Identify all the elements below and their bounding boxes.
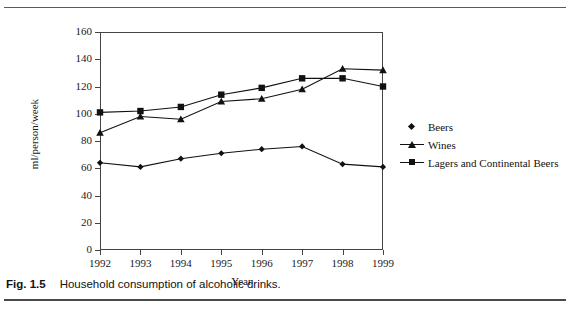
data-point-diamond <box>137 164 143 170</box>
y-tick-label: 20 <box>52 217 92 228</box>
x-tick <box>262 250 263 255</box>
x-tick <box>302 250 303 255</box>
chart-legend: BeersWinesLagers and Continental Beers <box>400 118 570 172</box>
x-tick <box>221 250 222 255</box>
legend-label: Beers <box>428 121 453 133</box>
data-point-diamond <box>380 164 386 170</box>
figure-caption: Fig. 1.5 Household consumption of alcoho… <box>6 278 281 290</box>
chart-figure: 020406080100120140160 ml/person/week 199… <box>0 10 570 272</box>
x-tick-label: 1999 <box>363 258 403 269</box>
x-tick-label: 1998 <box>323 258 363 269</box>
data-point-square <box>259 85 265 91</box>
series-lagers-and-continental-beers <box>97 75 386 115</box>
page-rule-top <box>4 7 566 8</box>
x-tick-label: 1997 <box>282 258 322 269</box>
legend-symbol <box>408 123 415 130</box>
data-point-diamond <box>218 150 224 156</box>
x-tick <box>140 250 141 255</box>
y-tick-label: 100 <box>52 108 92 119</box>
legend-marker-square-icon <box>400 157 424 169</box>
legend-symbol <box>408 141 416 148</box>
data-point-square <box>178 104 184 110</box>
x-tick-label: 1993 <box>120 258 160 269</box>
y-tick-label: 140 <box>52 53 92 64</box>
y-tick-label: 0 <box>52 244 92 255</box>
x-tick-label: 1996 <box>242 258 282 269</box>
data-point-square <box>218 91 224 97</box>
x-tick-label: 1995 <box>201 258 241 269</box>
data-point-diamond <box>259 146 265 152</box>
series-line <box>100 78 383 112</box>
plot-area <box>100 32 383 250</box>
series-beers <box>97 143 386 170</box>
legend-symbol <box>409 159 415 165</box>
data-point-square <box>380 83 386 89</box>
y-axis-tick-labels: 020406080100120140160 <box>48 10 92 272</box>
y-tick-label: 40 <box>52 190 92 201</box>
x-tick <box>343 250 344 255</box>
figure-page: 020406080100120140160 ml/person/week 199… <box>0 0 570 316</box>
page-rule-bottom <box>4 299 566 301</box>
y-tick-label: 120 <box>52 81 92 92</box>
data-point-diamond <box>178 156 184 162</box>
data-point-square <box>137 108 143 114</box>
data-point-square <box>339 75 345 81</box>
y-tick-label: 60 <box>52 162 92 173</box>
y-tick-label: 160 <box>52 26 92 37</box>
legend-item-beers: Beers <box>400 118 570 136</box>
x-tick-label: 1992 <box>80 258 120 269</box>
legend-item-lagers-and-continental-beers: Lagers and Continental Beers <box>400 154 570 172</box>
data-point-square <box>97 109 103 115</box>
x-tick-label: 1994 <box>161 258 201 269</box>
data-point-diamond <box>339 161 345 167</box>
figure-number: Fig. 1.5 <box>6 278 46 290</box>
y-tick-label: 80 <box>52 135 92 146</box>
y-axis-title: ml/person/week <box>28 74 40 194</box>
x-tick <box>100 250 101 255</box>
legend-label: Lagers and Continental Beers <box>428 157 558 169</box>
legend-marker-triangle-icon <box>400 139 424 151</box>
data-point-triangle <box>298 85 306 92</box>
figure-caption-text: Household consumption of alcoholic drink… <box>60 278 281 290</box>
legend-marker-diamond-icon <box>400 121 424 133</box>
data-series-svg <box>100 32 383 250</box>
x-tick <box>181 250 182 255</box>
data-point-triangle <box>96 129 104 136</box>
data-point-diamond <box>97 160 103 166</box>
data-point-diamond <box>299 143 305 149</box>
data-point-square <box>299 75 305 81</box>
legend-item-wines: Wines <box>400 136 570 154</box>
legend-label: Wines <box>428 139 456 151</box>
x-tick <box>383 250 384 255</box>
